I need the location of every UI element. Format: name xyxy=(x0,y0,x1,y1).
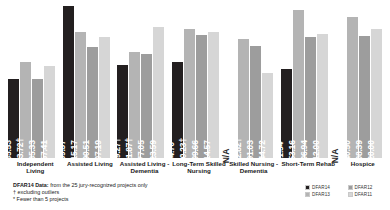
bar-slot: $151.54* xyxy=(281,0,292,158)
legend-label: DFAR13 xyxy=(312,192,330,197)
bar-slot: $177.05 xyxy=(141,0,152,158)
bar-slot: $135.33 xyxy=(32,0,43,158)
bar-slot: $144.72 xyxy=(262,0,273,158)
bar-chart: $135.53$163.72†$135.33$157.41$259.37$215… xyxy=(0,0,390,210)
bar-groups: $135.53$163.72†$135.33$157.41$259.37$215… xyxy=(8,0,390,158)
bar-slot: $202.82† xyxy=(238,0,249,158)
bar-slot: $209.66 xyxy=(196,0,207,158)
bar-slot: $164.70* xyxy=(172,0,183,158)
bar-slot: $214.57 xyxy=(208,0,219,158)
bar-slot: $259.37 xyxy=(63,0,74,158)
footnote-1-strong: DFAR14 Data: xyxy=(13,182,49,188)
category-label: Short-Term Rehab xyxy=(281,158,336,167)
footnote-1-rest: from the 25 jury-recognized projects onl… xyxy=(49,182,148,188)
bar-na-slot: N/A xyxy=(335,0,346,158)
bar-slot: $208.39 xyxy=(359,0,370,158)
bar[interactable]: $207.19 xyxy=(99,37,110,158)
category-label: Hospice xyxy=(335,158,390,167)
category-label: Skilled Nursing - Dementia xyxy=(226,158,281,175)
footnote-line-2: † excluding outliers xyxy=(13,189,223,196)
bar[interactable]: $212.00 xyxy=(317,34,328,158)
bar-slot: $163.72† xyxy=(20,0,31,158)
bar-slot: $220.00 xyxy=(371,0,382,158)
bar-slot: $181.87† xyxy=(129,0,140,158)
bar-slot: $159.27† xyxy=(117,0,128,158)
category-label: Independent Living xyxy=(8,158,63,175)
bar-group: $259.37$215.17$190.51$207.19 xyxy=(63,0,118,158)
legend-swatch xyxy=(348,185,353,190)
bar-group: $159.27†$181.87†$177.05$223.59 xyxy=(117,0,172,158)
legend-item[interactable]: DFAR13 xyxy=(305,192,345,197)
category-label: Long-Term Skilled Nursing xyxy=(172,158,227,175)
bar-group: N/A$202.82†$191.03$144.72 xyxy=(226,0,281,158)
bar[interactable]: $259.37 xyxy=(63,6,74,158)
bar[interactable]: $214.57 xyxy=(208,32,219,158)
legend-label: DFAR11 xyxy=(355,192,373,197)
category-label: Assisted Living - Dementia xyxy=(117,158,172,175)
bar[interactable]: $223.59 xyxy=(153,27,164,158)
bar-slot: $220.23† xyxy=(184,0,195,158)
bar-slot: $206.94 xyxy=(305,0,316,158)
bar-group: $151.54*$253.16$206.94$212.00 xyxy=(281,0,336,158)
legend-item[interactable]: DFAR11 xyxy=(348,192,388,197)
footnote-line-1: DFAR14 Data: from the 25 jury-recognized… xyxy=(13,182,223,189)
bar-group: $164.70*$220.23†$209.66$214.57 xyxy=(172,0,227,158)
bar[interactable]: $144.72 xyxy=(262,73,273,158)
bar-slot: $253.16 xyxy=(293,0,304,158)
legend-label: DFAR14 xyxy=(312,185,330,190)
bar-slot: $212.00 xyxy=(317,0,328,158)
legend-label: DFAR12 xyxy=(355,185,373,190)
bar-slot: $207.19 xyxy=(99,0,110,158)
bar[interactable]: $220.00 xyxy=(371,29,382,158)
bar[interactable]: $240.50 xyxy=(347,17,358,158)
bar[interactable]: $220.23† xyxy=(184,29,195,158)
bar-na-slot: N/A xyxy=(226,0,237,158)
bar-slot: $190.51 xyxy=(87,0,98,158)
plot-area: $135.53$163.72†$135.33$157.41$259.37$215… xyxy=(0,0,390,158)
bar-slot: $223.59 xyxy=(153,0,164,158)
bar[interactable]: $215.17 xyxy=(75,32,86,158)
footnotes: DFAR14 Data: from the 25 jury-recognized… xyxy=(13,182,223,204)
footnote-line-3: * Fewer than 5 projects xyxy=(13,196,223,203)
category-label: Assisted Living xyxy=(63,158,118,167)
bar-slot: $191.03 xyxy=(250,0,261,158)
legend-item[interactable]: DFAR14 xyxy=(305,185,345,190)
legend-swatch xyxy=(305,192,310,197)
bar-slot: $240.50 xyxy=(347,0,358,158)
bar[interactable]: $253.16 xyxy=(293,10,304,158)
bar-slot: $215.17 xyxy=(75,0,86,158)
bar[interactable]: $157.41 xyxy=(44,66,55,158)
legend-item[interactable]: DFAR12 xyxy=(348,185,388,190)
bar-slot: $135.53 xyxy=(8,0,19,158)
legend-swatch xyxy=(348,192,353,197)
bar-slot: $157.41 xyxy=(44,0,55,158)
category-axis: Independent LivingAssisted LivingAssiste… xyxy=(8,158,390,180)
bar-group: N/A$240.50$208.39$220.00 xyxy=(335,0,390,158)
bar-group: $135.53$163.72†$135.33$157.41 xyxy=(8,0,63,158)
legend-swatch xyxy=(305,185,310,190)
chart-legend: DFAR14DFAR12DFAR13DFAR11 xyxy=(305,185,387,197)
